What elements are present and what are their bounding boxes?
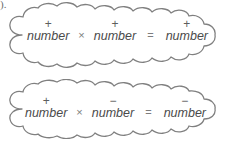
multiply-operator-2: ×	[76, 105, 82, 121]
sign-2-middle: −	[109, 97, 116, 106]
sign-1-right: +	[183, 20, 190, 29]
word-1-right: number	[166, 29, 208, 44]
sign-2-right: −	[181, 97, 188, 106]
term-1-right: + number	[166, 20, 208, 44]
equals-operator-2: =	[145, 105, 151, 121]
equation-row-1: + number × + number = + number	[0, 20, 229, 44]
document-page: ). + number × + number = + number	[0, 0, 229, 141]
term-2-middle: − number	[92, 97, 134, 121]
term-1-middle: + number	[94, 20, 136, 44]
term-2-left: + number	[25, 97, 67, 121]
word-2-right: number	[164, 106, 206, 121]
word-1-left: number	[27, 29, 69, 44]
equation-row-2: + number × − number = − number	[0, 97, 229, 121]
sign-2-left: +	[43, 97, 50, 106]
equals-operator-1: =	[147, 28, 153, 44]
term-1-left: + number	[27, 20, 69, 44]
term-2-right: − number	[164, 97, 206, 121]
sign-1-left: +	[45, 20, 52, 29]
word-2-left: number	[25, 106, 67, 121]
word-2-middle: number	[92, 106, 134, 121]
multiply-operator-1: ×	[78, 28, 84, 44]
word-1-middle: number	[94, 29, 136, 44]
sign-1-middle: +	[111, 20, 118, 29]
